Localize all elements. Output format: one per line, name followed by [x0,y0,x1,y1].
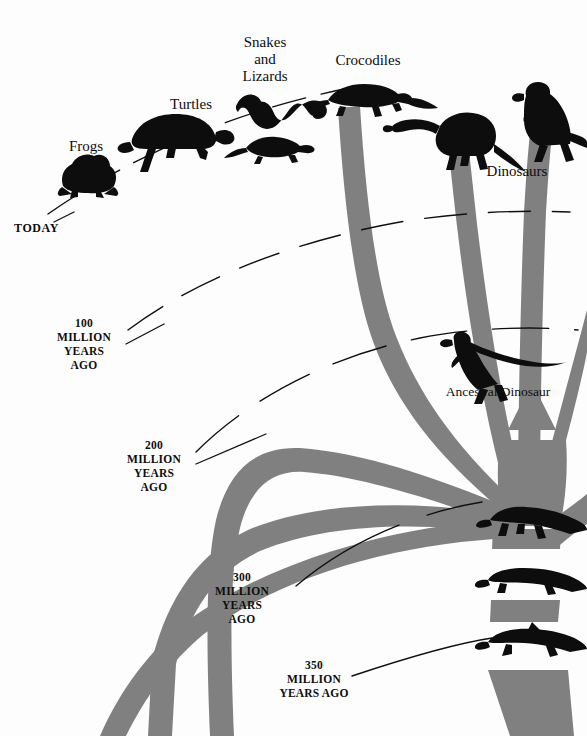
time-label-300-mya: 300 MILLION YEARS AGO [206,570,278,626]
snake-silhouette [236,94,327,128]
trunk-segment-lower [490,600,560,622]
taxon-label-snakes-and-lizards: Snakes and Lizards [224,34,306,84]
evolutionary-tree-figure: Frogs Turtles Snakes and Lizards Crocodi… [0,0,587,736]
turtle-silhouette [118,114,235,172]
time-label-today: TODAY [14,222,59,235]
crocodile-silhouette [308,84,438,117]
taxon-label-turtles: Turtles [156,96,226,113]
trunk-segment-base [488,670,574,736]
arc-350-mya [352,638,492,676]
early-amphibian-silhouette [475,568,587,595]
frog-silhouette [58,154,118,198]
lizard-silhouette [224,137,315,164]
time-label-100-mya: 100 MILLION YEARS AGO [48,316,120,372]
ancestral-dinosaur-label: Ancestral Dinosaur [422,384,574,399]
taxon-label-frogs: Frogs [56,138,116,155]
taxon-label-dinosaurs: Dinosaurs [478,163,556,180]
lobe-finned-fish-silhouette [475,622,587,657]
taxon-label-crocodiles: Crocodiles [322,52,414,69]
time-label-350-mya: 350 MILLION YEARS AGO [256,658,372,700]
arc-100-mya [128,211,570,330]
time-label-200-mya: 200 MILLION YEARS AGO [118,438,190,494]
